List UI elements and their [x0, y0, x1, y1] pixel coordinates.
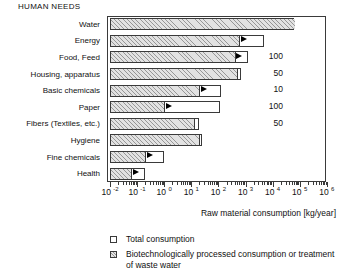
- axis-tick-minor: [172, 182, 173, 185]
- axis-tick-minor: [316, 182, 317, 185]
- bar-value-annotation: 100: [257, 51, 283, 61]
- axis-tick-label: 10 6: [319, 186, 334, 197]
- axis-tick-minor: [235, 182, 236, 185]
- category-label: Housing, apparatus: [0, 66, 103, 83]
- bar-total: [110, 118, 199, 130]
- axis-tick-minor: [208, 182, 209, 185]
- axis-tick-minor: [199, 182, 200, 185]
- axis-tick-minor: [123, 182, 124, 185]
- category-label: Basic chemicals: [0, 82, 103, 99]
- category-label: Water: [0, 16, 103, 33]
- bar-row: [107, 132, 326, 149]
- axis-tick-label: 10 2: [211, 186, 226, 197]
- chart-root: HUMAN NEEDS WaterEnergyFood, FeedHousing…: [0, 0, 342, 277]
- axis-tick-minor: [210, 182, 211, 185]
- axis-tick-label: 10 4: [265, 186, 280, 197]
- axis-tick-minor: [286, 182, 287, 185]
- axis-tick-minor: [181, 182, 182, 185]
- axis-tick-minor: [145, 182, 146, 185]
- bar-row: [107, 16, 326, 33]
- axis-tick-minor: [150, 182, 151, 185]
- bar-value-annotation: 10: [257, 84, 283, 94]
- legend-item-total: Total consumption: [110, 234, 342, 247]
- category-label: Paper: [0, 99, 103, 116]
- range-arrow-icon: [147, 152, 153, 158]
- bar-row: 100: [107, 99, 326, 116]
- axis-tick-label: 10 1: [184, 186, 199, 197]
- bar-row: [107, 149, 326, 166]
- bar-biotech: [111, 36, 240, 46]
- axis-tick-minor: [254, 182, 255, 185]
- bar-total: [110, 18, 294, 30]
- axis-tick-minor: [262, 182, 263, 185]
- bar-value-annotation: 100: [257, 101, 283, 111]
- axis-tick-minor: [289, 182, 290, 185]
- bar-row: 50: [107, 116, 326, 133]
- bar-row: 100: [107, 49, 326, 66]
- bar-total: [110, 168, 145, 180]
- axis-tick-label: 10 -2: [101, 186, 118, 197]
- axis-tick-minor: [156, 182, 157, 185]
- x-axis-title: Raw material consumption [kg/year]: [0, 208, 336, 218]
- bar-biotech: [111, 19, 295, 29]
- category-label: Fibers (Textiles, etc.): [0, 116, 103, 133]
- bar-row: 10: [107, 82, 326, 99]
- bar-biotech: [111, 135, 200, 145]
- axis-tick-minor: [237, 182, 238, 185]
- category-label: Fine chemicals: [0, 149, 103, 166]
- bar-biotech: [111, 52, 236, 62]
- x-axis-tick-labels: 10 -210 -110 010 110 210 310 410 510 6: [0, 186, 342, 202]
- axis-tick-label: 10 -1: [129, 186, 146, 197]
- axis-tick-minor: [258, 182, 259, 185]
- legend-swatch-hatched-square: [110, 251, 117, 258]
- axis-tick-minor: [264, 182, 265, 185]
- bar-biotech: [111, 102, 165, 112]
- legend: Total consumption Biotechnologically pro…: [110, 234, 342, 272]
- bar-biotech: [111, 169, 132, 179]
- category-label: Food, Feed: [0, 49, 103, 66]
- axis-tick-minor: [231, 182, 232, 185]
- legend-item-biotech: Biotechnologically processed consumption…: [110, 249, 342, 270]
- axis-tick-minor: [126, 182, 127, 185]
- legend-label-total: Total consumption: [126, 234, 342, 245]
- bar-biotech: [111, 86, 200, 96]
- bar-total: [110, 151, 164, 163]
- bar-total: [110, 51, 248, 63]
- range-arrow-icon: [201, 86, 207, 92]
- bar-row: [107, 33, 326, 50]
- axis-tick-label: 10 5: [292, 186, 307, 197]
- category-label: Hygiene: [0, 132, 103, 149]
- bar-row: 50: [107, 66, 326, 83]
- legend-swatch-open-square: [110, 236, 117, 243]
- legend-label-biotech: Biotechnologically processed consumption…: [126, 249, 342, 270]
- axis-tick-label: 10 0: [157, 186, 172, 197]
- axis-tick-minor: [313, 182, 314, 185]
- category-label-column: WaterEnergyFood, FeedHousing, apparatusB…: [0, 16, 103, 182]
- axis-tick-minor: [153, 182, 154, 185]
- chart-title: HUMAN NEEDS: [18, 2, 80, 11]
- category-label: Health: [0, 165, 103, 182]
- bar-row: [107, 165, 326, 182]
- bar-total: [110, 134, 202, 146]
- axis-tick-minor: [281, 182, 282, 185]
- bars-layer: 100501010050: [107, 16, 326, 182]
- bar-value-annotation: 50: [257, 118, 283, 128]
- axis-tick-label: 10 3: [238, 186, 253, 197]
- axis-tick-minor: [118, 182, 119, 185]
- axis-tick-minor: [308, 182, 309, 185]
- bar-total: [110, 68, 241, 80]
- axis-tick-minor: [292, 182, 293, 185]
- axis-tick-minor: [183, 182, 184, 185]
- category-label: Energy: [0, 33, 103, 50]
- axis-tick-minor: [204, 182, 205, 185]
- range-arrow-icon: [236, 53, 242, 59]
- axis-tick-minor: [227, 182, 228, 185]
- bar-value-annotation: 50: [257, 68, 283, 78]
- axis-tick-minor: [177, 182, 178, 185]
- bar-biotech: [111, 119, 195, 129]
- axis-tick-minor: [129, 182, 130, 185]
- range-arrow-icon: [166, 103, 172, 109]
- axis-tick-minor: [319, 182, 320, 185]
- bar-biotech: [111, 152, 146, 162]
- range-arrow-icon: [133, 169, 139, 175]
